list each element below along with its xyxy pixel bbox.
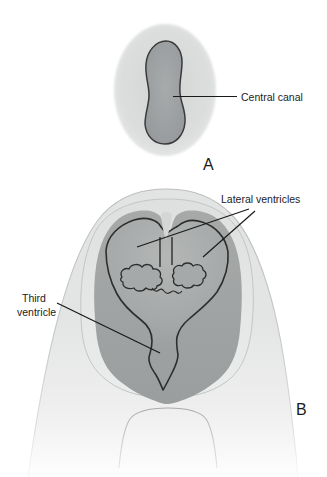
figure-svg: Central canal A Lateral ventricles Third… bbox=[0, 0, 327, 477]
third-ventricle-label-line2: ventricle bbox=[17, 306, 56, 318]
panel-b: Lateral ventricles Third ventricle B bbox=[17, 189, 307, 477]
panel-letter-a: A bbox=[203, 156, 214, 173]
anatomy-diagram: Central canal A Lateral ventricles Third… bbox=[0, 0, 327, 477]
choroid-plexus-right bbox=[173, 263, 207, 288]
panel-letter-b: B bbox=[296, 401, 307, 418]
third-ventricle-label-line1: Third bbox=[22, 292, 46, 304]
central-canal-shape bbox=[145, 41, 185, 144]
panel-a: Central canal A bbox=[114, 24, 303, 173]
lateral-ventricles-label: Lateral ventricles bbox=[221, 193, 300, 205]
central-canal-label: Central canal bbox=[241, 91, 303, 103]
choroid-plexus-left bbox=[121, 265, 163, 291]
